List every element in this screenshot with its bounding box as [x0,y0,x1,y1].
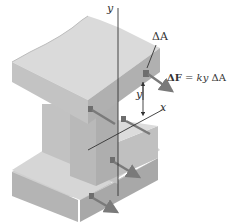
element-web-mid [121,116,126,122]
force-symbol: ΔF [167,72,182,83]
x-axis-label: x [160,101,166,114]
distance-y-label: y [136,88,142,101]
y-axis-label: y [107,2,113,15]
element-top-flange [143,70,149,77]
element-area-label: ΔA [152,30,168,43]
force-equation: ΔF = ky ΔA [167,72,226,83]
i-beam-diagram [0,0,228,224]
top-flange [12,16,160,124]
